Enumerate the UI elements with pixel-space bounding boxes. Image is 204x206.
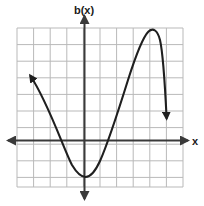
y-axis-label: b(x) [74,4,95,16]
x-axis-label: x [192,135,199,147]
function-graph-svg: b(x) x [0,0,204,206]
graph-figure-page: b(x) x [0,0,204,206]
